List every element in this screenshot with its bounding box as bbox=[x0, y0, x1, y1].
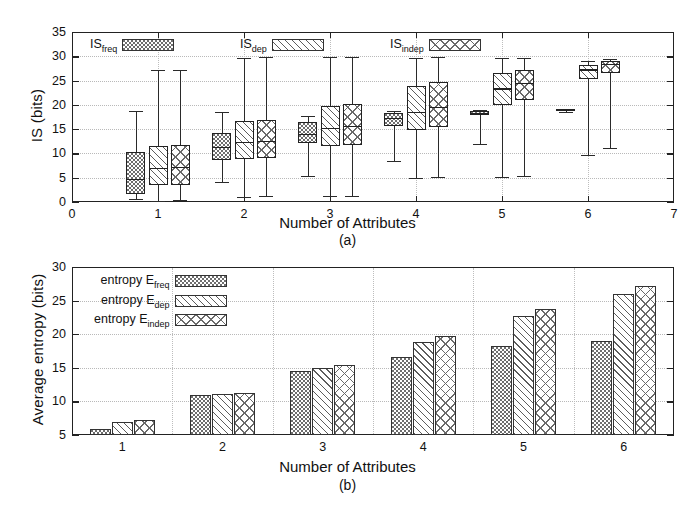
panel-b-legend-label: entropy Eindep bbox=[94, 312, 170, 329]
panel-a-y-tick: 5 bbox=[32, 171, 66, 185]
panel-b-legend-swatch bbox=[175, 295, 227, 307]
panel-b-legend: entropy Efreqentropy Edepentropy Eindep bbox=[94, 273, 227, 329]
panel-a-legend-label: ISdep bbox=[240, 37, 267, 54]
bar-entropy E_freq-6 bbox=[591, 341, 612, 435]
bar-entropy E_freq-4 bbox=[391, 357, 412, 435]
panel-b-x-tick: 2 bbox=[219, 440, 226, 454]
bar-entropy E_indep-6 bbox=[635, 286, 656, 435]
panel-b-legend-item: entropy Edep bbox=[94, 293, 227, 310]
panel-b-y-tick: 25 bbox=[32, 294, 66, 308]
panel-a-legend-swatch bbox=[122, 39, 174, 51]
panel-b-caption: (b) bbox=[0, 477, 695, 493]
panel-b-y-tick: 10 bbox=[32, 394, 66, 408]
panel-a-y-tick: 30 bbox=[32, 49, 66, 63]
panel-a-x-tick: 6 bbox=[573, 207, 603, 221]
panel-b-y-tick: 30 bbox=[32, 260, 66, 274]
panel-b-x-tick: 6 bbox=[620, 440, 627, 454]
panel-a-x-tick: 5 bbox=[487, 207, 517, 221]
panel-a-y-tick: 35 bbox=[32, 25, 66, 39]
panel-a-x-tick: 4 bbox=[401, 207, 431, 221]
bar-entropy E_indep-4 bbox=[435, 336, 456, 435]
panel-b-y-tick: 15 bbox=[32, 361, 66, 375]
bar-entropy E_indep-2 bbox=[234, 393, 255, 435]
panel-b-x-tick: 4 bbox=[420, 440, 427, 454]
bar-entropy E_dep-1 bbox=[112, 422, 133, 435]
bar-entropy E_dep-4 bbox=[413, 342, 434, 435]
panel-a-x-tick: 3 bbox=[315, 207, 345, 221]
panel-a-x-tick: 0 bbox=[57, 207, 87, 221]
panel-a-legend-item: ISdep bbox=[240, 37, 324, 54]
panel-a-legend-swatch bbox=[429, 39, 481, 51]
panel-b-x-tick: 3 bbox=[319, 440, 326, 454]
panel-b-legend-item: entropy Eindep bbox=[94, 312, 227, 329]
bar-entropy E_dep-3 bbox=[312, 368, 333, 435]
panel-a-y-tick: 10 bbox=[32, 146, 66, 160]
panel-b-y-tick: 5 bbox=[32, 428, 66, 442]
panel-a-legend-item: ISfreq bbox=[90, 37, 174, 54]
panel-b-x-tick: 5 bbox=[520, 440, 527, 454]
panel-b-legend-label: entropy Efreq bbox=[101, 273, 170, 290]
panel-a-y-tick: 20 bbox=[32, 98, 66, 112]
panel-b-x-tick: 1 bbox=[119, 440, 126, 454]
bar-entropy E_freq-3 bbox=[290, 371, 311, 435]
panel-a-boxplot: IS (bits) Number of Attributes (a) 05101… bbox=[0, 0, 695, 255]
bar-entropy E_indep-3 bbox=[334, 365, 355, 435]
panel-a-legend-swatch bbox=[272, 39, 324, 51]
panel-a-x-tick: 1 bbox=[143, 207, 173, 221]
panel-a-x-tick: 7 bbox=[659, 207, 689, 221]
bar-entropy E_indep-5 bbox=[535, 309, 556, 435]
panel-a-legend-item: ISindep bbox=[390, 37, 481, 54]
panel-a-y-tick: 25 bbox=[32, 74, 66, 88]
bar-entropy E_freq-2 bbox=[190, 395, 211, 435]
panel-a-x-tick: 2 bbox=[229, 207, 259, 221]
panel-a-legend-label: ISindep bbox=[390, 37, 424, 54]
bar-entropy E_dep-6 bbox=[613, 294, 634, 435]
panel-a-caption: (a) bbox=[0, 232, 695, 248]
bar-entropy E_dep-2 bbox=[212, 394, 233, 435]
figure-container: IS (bits) Number of Attributes (a) 05101… bbox=[0, 0, 695, 510]
panel-b-barchart: Average entropy (bits) Number of Attribu… bbox=[0, 255, 695, 510]
panel-b-y-tick: 20 bbox=[32, 327, 66, 341]
panel-b-legend-label: entropy Edep bbox=[101, 293, 170, 310]
panel-b-legend-swatch bbox=[175, 275, 227, 287]
bar-entropy E_freq-1 bbox=[90, 429, 111, 435]
panel-b-legend-item: entropy Efreq bbox=[94, 273, 227, 290]
panel-a-y-tick: 15 bbox=[32, 122, 66, 136]
panel-a-legend-label: ISfreq bbox=[90, 37, 117, 54]
panel-b-x-axis-label: Number of Attributes bbox=[0, 458, 695, 475]
bar-entropy E_indep-1 bbox=[134, 420, 155, 435]
bar-entropy E_freq-5 bbox=[491, 346, 512, 435]
panel-b-legend-swatch bbox=[175, 314, 227, 326]
bar-entropy E_dep-5 bbox=[513, 316, 534, 435]
